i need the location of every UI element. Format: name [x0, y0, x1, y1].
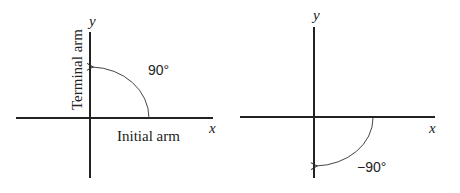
angle-label: 90°: [148, 62, 169, 78]
y-axis-label: y: [87, 13, 96, 29]
diagram-negative-90: y x −90°: [240, 7, 436, 178]
angle-arc: [92, 67, 149, 118]
x-axis-label: x: [428, 120, 436, 136]
initial-arm-label: Initial arm: [117, 128, 180, 144]
angle-label: −90°: [357, 159, 386, 175]
x-axis-label: x: [208, 120, 216, 136]
terminal-arm-label: Terminal arm: [69, 29, 85, 110]
diagram-positive-90: y x 90° Initial arm Terminal arm: [16, 13, 216, 178]
angle-diagrams: y x 90° Initial arm Terminal arm y x −90…: [0, 0, 460, 193]
y-axis-label: y: [311, 7, 320, 23]
